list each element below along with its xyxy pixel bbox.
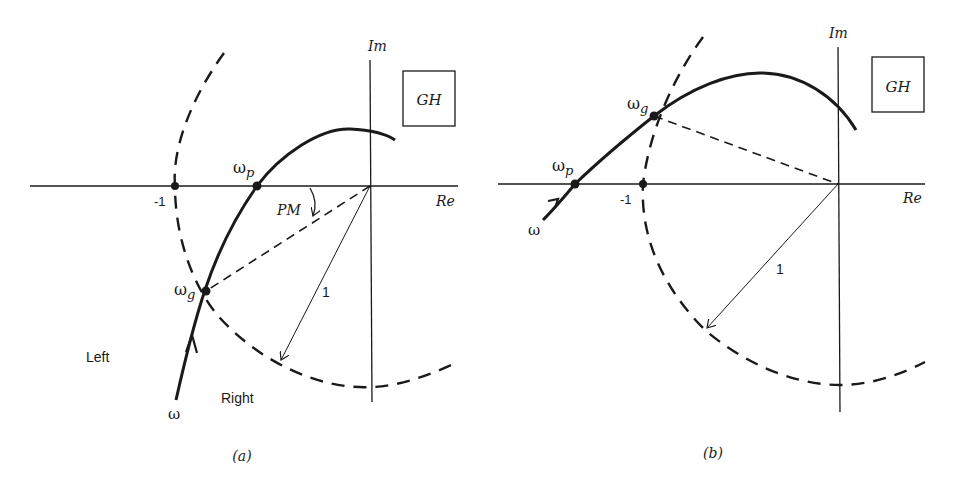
caption-b: (b) (703, 445, 723, 461)
omega-p-point (253, 182, 262, 191)
minus-one-label: -1 (154, 194, 166, 209)
unit-circle (643, 37, 925, 385)
radius-label: 1 (776, 261, 784, 277)
right-label: Right (221, 390, 254, 406)
minus-one-point (639, 180, 647, 188)
im-axis (838, 47, 840, 412)
re-label: Re (435, 193, 455, 209)
minus-one-point (171, 182, 179, 190)
left-label: Left (86, 349, 109, 365)
direction-arrow-icon (548, 199, 558, 208)
radius-arrow (707, 184, 838, 328)
direction-arrow-icon (186, 335, 197, 353)
nyquist-curve (176, 129, 395, 400)
gh-label: GH (416, 91, 442, 109)
re-label: Re (902, 190, 922, 206)
im-label: Im (828, 25, 848, 41)
omega-p-label: ωp (552, 156, 574, 178)
caption-a: (a) (232, 448, 251, 464)
gh-label: GH (885, 78, 911, 96)
radius-label: 1 (322, 284, 330, 300)
omega-label: ω (168, 405, 180, 423)
minus-one-label: -1 (620, 192, 632, 207)
nyquist-curve (543, 73, 856, 220)
omega-g-label: ωg (174, 280, 195, 302)
panel-b: GH Im Re -1 ωp ωg 1 ω (b) (498, 25, 925, 461)
omega-p-point (571, 180, 580, 189)
pm-label: PM (276, 202, 301, 218)
panel-a: GH Im Re -1 ωp ωg PM 1 ω Left Right (a) (30, 38, 458, 464)
nyquist-figure: GH Im Re -1 ωp ωg PM 1 ω Left Right (a) (0, 0, 954, 489)
im-axis (370, 60, 372, 402)
pm-arc (310, 188, 315, 216)
omega-label: ω (528, 221, 540, 239)
phase-margin-line (654, 116, 838, 184)
omega-p-label: ωp (233, 158, 255, 180)
im-label: Im (367, 38, 387, 54)
omega-g-label: ωg (627, 94, 648, 116)
